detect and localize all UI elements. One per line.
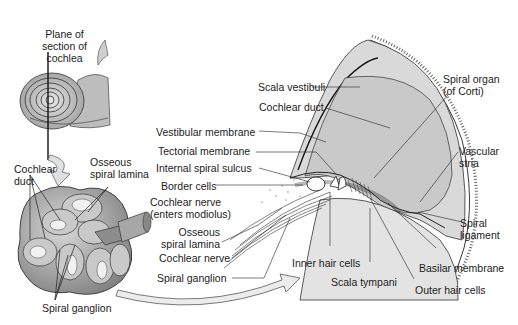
label-inner-hair-cells: Inner hair cells bbox=[292, 257, 360, 269]
label-border-cells: Border cells bbox=[161, 180, 216, 192]
cochlea-diagram: Plane of section of cochlea Cochlear duc… bbox=[0, 0, 518, 325]
cochlea-section-illustration bbox=[18, 175, 300, 305]
label-line: (enters modiolus) bbox=[150, 208, 231, 220]
label-line: stria bbox=[459, 157, 499, 169]
label-line: duct bbox=[14, 175, 56, 187]
label-line: spiral lamina bbox=[90, 168, 149, 180]
label-line: Spiral bbox=[460, 217, 500, 229]
label-line: spiral lamina bbox=[160, 238, 220, 250]
label-vascular-stria: Vascular stria bbox=[459, 145, 499, 169]
label-osseous-spiral-lamina-section: Osseous spiral lamina bbox=[90, 156, 149, 180]
label-spiral-ganglion-section: Spiral ganglion bbox=[42, 302, 111, 314]
internal-spiral-sulcus-space bbox=[307, 177, 325, 191]
label-cochlear-duct-section: Cochlear duct bbox=[14, 163, 56, 187]
label-spiral-ganglion-detail: Spiral ganglion bbox=[157, 272, 226, 284]
label-line: ligament bbox=[460, 229, 500, 241]
label-line: Plane of bbox=[42, 28, 87, 40]
label-plane-of-section: Plane of section of cochlea bbox=[42, 28, 87, 64]
label-tectorial-membrane: Tectorial membrane bbox=[158, 145, 250, 157]
label-line: Vascular bbox=[459, 145, 499, 157]
label-scala-tympani: Scala tympani bbox=[331, 276, 397, 288]
label-basilar-membrane: Basilar membrane bbox=[419, 262, 504, 274]
label-cochlear-nerve: Cochlear nerve bbox=[159, 252, 230, 264]
label-outer-hair-cells: Outer hair cells bbox=[415, 284, 486, 296]
label-osseous-spiral-lamina-detail: Osseous spiral lamina bbox=[160, 226, 220, 250]
label-internal-spiral-sulcus: Internal spiral sulcus bbox=[156, 162, 252, 174]
label-line: cochlea bbox=[42, 52, 87, 64]
label-line: (of Corti) bbox=[443, 85, 500, 97]
label-spiral-organ: Spiral organ (of Corti) bbox=[443, 73, 500, 97]
label-vestibular-membrane: Vestibular membrane bbox=[156, 126, 255, 138]
label-line: Cochlear bbox=[14, 163, 56, 175]
label-line: Osseous bbox=[160, 226, 220, 238]
label-line: Spiral organ bbox=[443, 73, 500, 85]
label-line: Cochlear nerve bbox=[150, 196, 231, 208]
label-cochlear-nerve-enters: Cochlear nerve (enters modiolus) bbox=[150, 196, 231, 220]
label-line: section of bbox=[42, 40, 87, 52]
label-spiral-ligament: Spiral ligament bbox=[460, 217, 500, 241]
label-line: Osseous bbox=[90, 156, 149, 168]
label-scala-vestibuli: Scala vestibuli bbox=[258, 81, 325, 93]
label-cochlear-duct: Cochlear duct bbox=[259, 101, 324, 113]
